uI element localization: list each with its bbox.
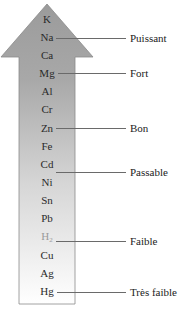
element-Ag: Ag [19,266,75,280]
label-passable: Passable [130,165,168,179]
element-Ca: Ca [19,48,75,62]
connector-puissant [56,38,126,39]
element-Cr: Cr [19,102,75,116]
connector-passable [56,172,126,173]
connector-faible [56,241,126,242]
reactivity-arrow [0,0,180,310]
element-Pb: Pb [19,211,75,225]
label-faible: Faible [130,234,158,248]
element-Al: Al [19,84,75,98]
element-K: K [19,12,75,26]
label-bon: Bon [130,121,148,135]
element-Cd: Cd [19,157,75,171]
element-Ni: Ni [19,175,75,189]
connector-fort [58,73,126,74]
label-puissant: Puissant [130,31,167,45]
connector-tres-faible [57,292,126,293]
element-Fe: Fe [19,139,75,153]
element-Cu: Cu [19,248,75,262]
element-Hg: Hg [19,284,75,298]
element-Sn: Sn [19,193,75,207]
label-fort: Fort [130,66,148,80]
connector-bon [56,128,126,129]
label-tres-faible: Très faible [130,285,177,299]
element-Na: Na [19,30,75,44]
